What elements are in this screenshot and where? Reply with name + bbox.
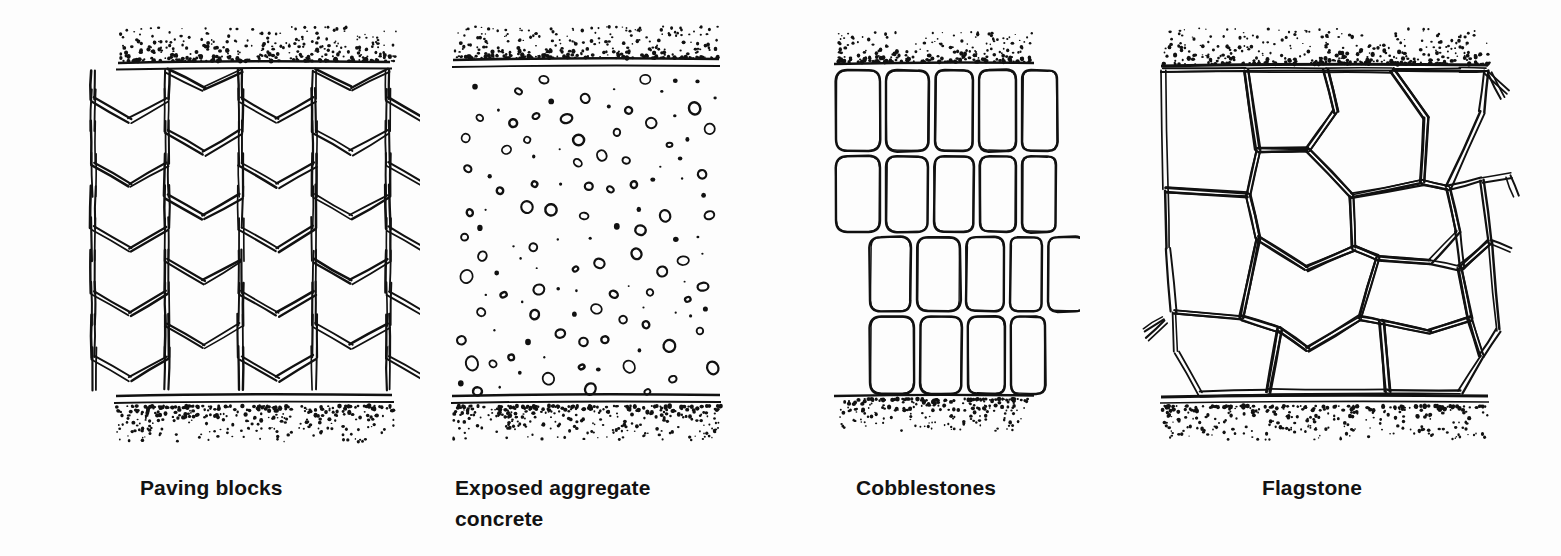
paving-blocks-svg	[60, 0, 420, 460]
panel-flagstone: Flagstone	[1130, 0, 1530, 556]
flagstone-svg	[1130, 0, 1530, 460]
grade-line-bottom	[114, 394, 394, 403]
hexagon-lattice	[90, 69, 420, 391]
grade-line-bottom	[1160, 395, 1489, 403]
caption-flagstone: Flagstone	[1262, 472, 1362, 503]
grade-line-bottom	[451, 394, 721, 403]
stipple-band-top-icon	[454, 25, 720, 61]
panel-exposed-aggregate: Exposed aggregate concrete	[420, 0, 750, 556]
grade-line-top	[116, 61, 392, 69]
stipple-band-top-icon	[1162, 27, 1491, 66]
cobblestones-svg	[800, 0, 1080, 460]
stipple-band-bottom-icon	[115, 403, 395, 443]
stipple-band-bottom-icon	[1161, 403, 1489, 441]
aggregate-pebbles	[456, 75, 721, 397]
stipple-band-top-icon	[119, 26, 397, 64]
flagstone-slabs	[1143, 67, 1519, 396]
panel-paving-blocks: Paving blocks	[60, 0, 420, 556]
stipple-band-bottom-icon	[839, 396, 1029, 432]
grade-line-bottom	[834, 395, 1034, 396]
figure-sheet: Paving blocks Exposed aggregate concrete	[0, 0, 1561, 556]
grade-line-top	[834, 62, 1034, 64]
cobblestone-setts	[836, 70, 1081, 395]
stipple-band-bottom-icon	[452, 403, 723, 441]
stipple-band-top-icon	[836, 31, 1033, 64]
exposed-aggregate-illustration	[420, 0, 750, 460]
caption-exposed-aggregate: Exposed aggregate concrete	[455, 472, 650, 534]
cobblestones-illustration	[800, 0, 1080, 460]
exposed-aggregate-svg	[420, 0, 750, 460]
flagstone-illustration	[1130, 0, 1530, 460]
panel-cobblestones: Cobblestones	[800, 0, 1080, 556]
caption-paving-blocks: Paving blocks	[140, 472, 283, 503]
caption-cobblestones: Cobblestones	[856, 472, 996, 503]
grade-line-top	[452, 58, 720, 67]
paving-blocks-illustration	[60, 0, 420, 460]
